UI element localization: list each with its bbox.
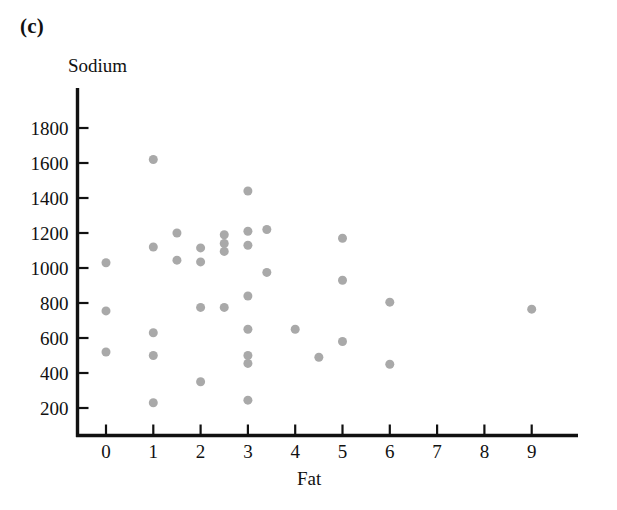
y-axis: 20040060080010001200140016001800 bbox=[31, 88, 89, 437]
data-point bbox=[314, 353, 323, 362]
y-tick-label: 600 bbox=[40, 328, 69, 349]
data-point bbox=[220, 230, 229, 239]
x-tick-label: 4 bbox=[290, 441, 300, 462]
y-tick-label: 1600 bbox=[31, 153, 69, 174]
data-point bbox=[149, 398, 158, 407]
data-point bbox=[385, 360, 394, 369]
data-point bbox=[196, 377, 205, 386]
data-point bbox=[262, 268, 271, 277]
x-tick-label: 5 bbox=[338, 441, 348, 462]
x-axis: 0123456789 bbox=[76, 425, 578, 462]
data-point bbox=[385, 298, 394, 307]
x-tick-label: 7 bbox=[432, 441, 442, 462]
data-point bbox=[149, 351, 158, 360]
y-tick-label: 1200 bbox=[31, 223, 69, 244]
x-tick-label: 0 bbox=[101, 441, 111, 462]
data-point bbox=[220, 303, 229, 312]
y-tick-label: 1800 bbox=[31, 118, 69, 139]
x-tick-label: 1 bbox=[149, 441, 159, 462]
y-tick-label: 200 bbox=[40, 398, 69, 419]
data-point bbox=[291, 325, 300, 334]
data-point bbox=[338, 276, 347, 285]
plot-canvas: 20040060080010001200140016001800 0123456… bbox=[0, 0, 617, 510]
data-point bbox=[527, 305, 536, 314]
data-point bbox=[196, 303, 205, 312]
data-point bbox=[243, 351, 252, 360]
scatterplot-figure: (c) Sodium Fat 2004006008001000120014001… bbox=[0, 0, 617, 510]
data-point bbox=[220, 239, 229, 248]
y-tick-label: 400 bbox=[40, 363, 69, 384]
x-tick-label: 8 bbox=[480, 441, 490, 462]
data-point bbox=[243, 227, 252, 236]
x-tick-label: 6 bbox=[385, 441, 395, 462]
data-point bbox=[243, 325, 252, 334]
y-tick-label: 1000 bbox=[31, 258, 69, 279]
data-point bbox=[262, 225, 271, 234]
data-point bbox=[102, 306, 111, 315]
data-point bbox=[243, 241, 252, 250]
data-point bbox=[172, 256, 181, 265]
data-point bbox=[149, 328, 158, 337]
data-point bbox=[102, 258, 111, 267]
data-point bbox=[196, 257, 205, 266]
data-point bbox=[196, 243, 205, 252]
data-point bbox=[338, 337, 347, 346]
data-points bbox=[102, 155, 537, 407]
data-point bbox=[149, 155, 158, 164]
data-point bbox=[220, 247, 229, 256]
x-tick-label: 2 bbox=[196, 441, 206, 462]
data-point bbox=[243, 396, 252, 405]
data-point bbox=[338, 234, 347, 243]
y-tick-label: 800 bbox=[40, 293, 69, 314]
data-point bbox=[243, 187, 252, 196]
data-point bbox=[172, 229, 181, 238]
x-tick-label: 9 bbox=[527, 441, 537, 462]
x-tick-label: 3 bbox=[243, 441, 253, 462]
data-point bbox=[102, 348, 111, 357]
data-point bbox=[243, 359, 252, 368]
data-point bbox=[149, 243, 158, 252]
data-point bbox=[243, 292, 252, 301]
y-tick-label: 1400 bbox=[31, 188, 69, 209]
